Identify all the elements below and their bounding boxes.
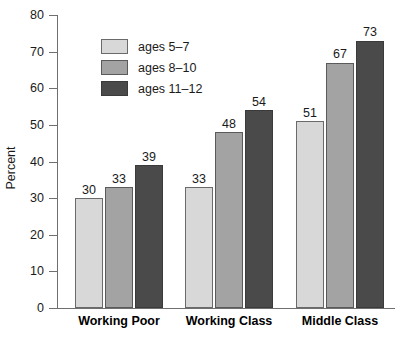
bar-value-label: 48 [222,118,236,131]
y-axis-tick-label: 40 [4,155,44,168]
y-axis-tick [49,235,57,236]
x-axis-line [57,308,395,309]
legend-item: ages 11–12 [101,78,202,99]
legend-label: ages 11–12 [138,82,202,96]
legend-label: ages 5–7 [138,40,189,54]
y-axis-tick-label: 50 [4,119,44,132]
y-axis-tick-label: 0 [4,302,44,315]
legend-label: ages 8–10 [138,61,196,75]
y-axis-tick [49,125,57,126]
y-axis-tick-label: 20 [4,229,44,242]
x-axis-category-label: Working Class [186,314,273,328]
y-axis-tick-label: 70 [4,45,44,58]
bar: 51 [296,121,324,308]
bar-value-label: 39 [142,151,156,164]
bar: 33 [105,187,133,308]
x-axis-category-label: Working Poor [78,314,160,328]
y-axis-tick-label: 80 [4,9,44,22]
y-axis-tick [49,162,57,163]
x-axis-category-label: Middle Class [302,314,378,328]
bar: 33 [185,187,213,308]
bar: 54 [245,110,273,308]
bar: 48 [215,132,243,308]
y-axis-tick [49,52,57,53]
bar: 39 [135,165,163,308]
legend-swatch [101,81,128,96]
bar-value-label: 33 [192,173,206,186]
bar-value-label: 33 [112,173,126,186]
y-axis-tick [49,15,57,16]
legend-item: ages 8–10 [101,57,202,78]
bar-value-label: 54 [252,96,266,109]
y-axis-tick [49,88,57,89]
bar-value-label: 51 [303,107,317,120]
bar: 30 [75,198,103,308]
y-axis-tick-label: 30 [4,192,44,205]
bar: 73 [356,41,384,308]
y-axis-tick [49,198,57,199]
bar-value-label: 30 [82,184,96,197]
legend-item: ages 5–7 [101,36,202,57]
bar-chart-figure: Percent 01020304050607080 30333933485451… [0,0,406,340]
chart-legend: ages 5–7ages 8–10ages 11–12 [101,36,202,99]
legend-swatch [101,39,128,54]
y-axis-tick [49,271,57,272]
y-axis-tick-label: 60 [4,82,44,95]
bar-value-label: 67 [333,48,347,61]
bar-value-label: 73 [363,26,377,39]
y-axis-tick [49,308,57,309]
bar: 67 [326,63,354,308]
legend-swatch [101,60,128,75]
y-axis-tick-label: 10 [4,265,44,278]
y-axis-title: Percent [4,138,18,198]
